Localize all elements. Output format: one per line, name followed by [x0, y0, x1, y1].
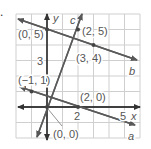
point-m1-1 [30, 90, 34, 94]
x-tick-5: 5 [120, 110, 126, 122]
coordinate-plane: (0, 5) (2, 5) (3, 4) (−1, 1) (2, 0) (0, … [0, 0, 151, 149]
x-axis-label: x [130, 110, 137, 122]
point-0-0 [45, 105, 49, 109]
x-tick-2: 2 [74, 110, 80, 122]
label-point-0-0: (0, 0) [53, 128, 79, 140]
point-0-5 [45, 28, 49, 32]
label-point-3-4: (3, 4) [76, 52, 102, 64]
line-a-label: a [128, 130, 134, 142]
label-point-m1-1: (−1, 1) [18, 74, 50, 86]
point-2-5 [76, 28, 80, 32]
label-point-2-0: (2, 0) [80, 91, 106, 103]
label-point-2-5: (2, 5) [82, 25, 108, 37]
line-c-label: c [70, 14, 76, 26]
y-tick-3: 3 [37, 55, 43, 67]
origin-leader [48, 109, 62, 126]
label-point-0-5: (0, 5) [18, 28, 44, 40]
line-b-label: b [129, 65, 135, 77]
point-3-4 [92, 43, 96, 47]
point-2-0 [76, 105, 80, 109]
